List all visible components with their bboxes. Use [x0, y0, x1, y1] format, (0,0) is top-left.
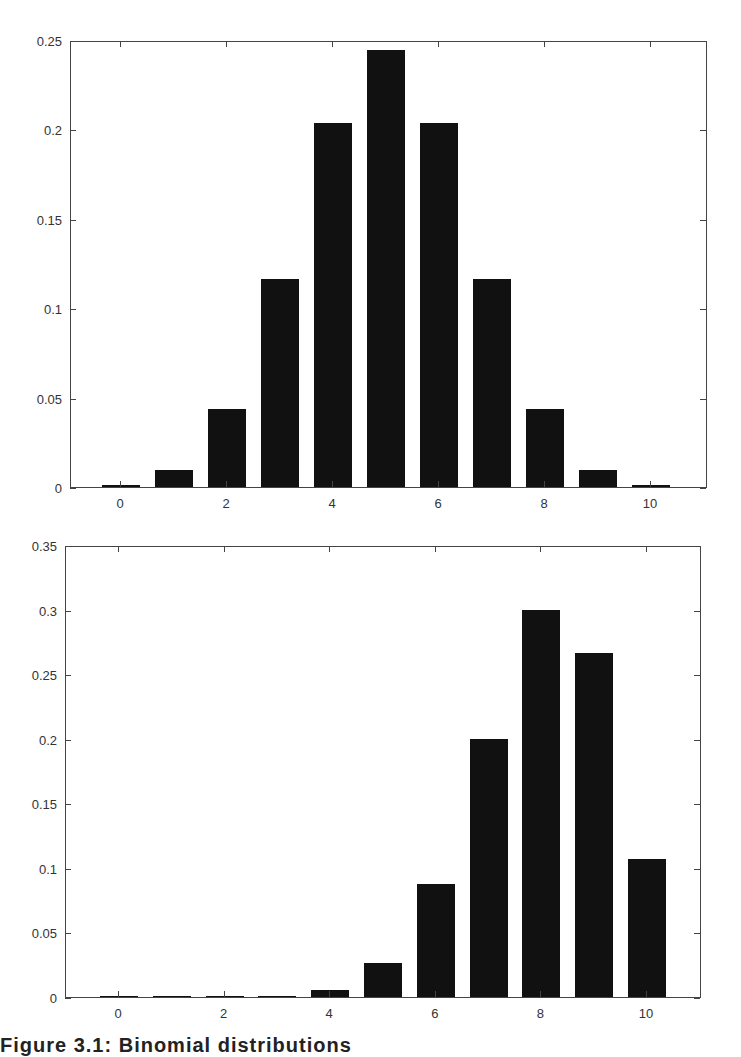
x-tick-mark [438, 41, 439, 47]
bar-6 [417, 884, 455, 997]
x-tick-label: 10 [631, 1006, 661, 1021]
x-tick-mark [438, 481, 439, 487]
x-tick-mark [329, 991, 330, 997]
x-tick-mark [540, 991, 541, 997]
y-tick-mark [70, 399, 76, 400]
x-tick-label: 4 [317, 496, 347, 511]
y-tick-mark [694, 740, 700, 741]
plot-area [65, 546, 701, 998]
y-tick-mark [65, 546, 71, 547]
x-tick-label: 8 [525, 1006, 555, 1021]
bar-8 [522, 610, 560, 997]
x-tick-mark [646, 991, 647, 997]
y-tick-mark [70, 309, 76, 310]
y-tick-mark [70, 130, 76, 131]
x-tick-mark [120, 41, 121, 47]
x-tick-label: 6 [420, 1006, 450, 1021]
bar-9 [579, 470, 617, 487]
bar-5 [364, 963, 402, 997]
y-tick-mark [70, 41, 76, 42]
y-tick-label: 0.2 [12, 123, 62, 138]
y-tick-label: 0.1 [12, 302, 62, 317]
x-tick-mark [224, 991, 225, 997]
y-tick-label: 0.15 [7, 797, 57, 812]
x-tick-mark [435, 546, 436, 552]
y-tick-mark [65, 740, 71, 741]
y-tick-mark [694, 869, 700, 870]
y-tick-mark [65, 611, 71, 612]
y-tick-label: 0.15 [12, 212, 62, 227]
x-tick-label: 0 [105, 496, 135, 511]
x-tick-mark [646, 546, 647, 552]
y-tick-mark [700, 399, 706, 400]
x-tick-mark [332, 41, 333, 47]
x-tick-mark [224, 546, 225, 552]
y-tick-mark [694, 804, 700, 805]
bar-4 [311, 990, 349, 997]
y-tick-label: 0 [12, 481, 62, 496]
x-tick-label: 2 [209, 1006, 239, 1021]
y-tick-label: 0 [7, 991, 57, 1006]
bar-7 [473, 279, 511, 487]
x-tick-mark [435, 991, 436, 997]
bar-8 [526, 409, 564, 487]
x-tick-mark [329, 546, 330, 552]
bar-2 [208, 409, 246, 487]
y-tick-mark [694, 611, 700, 612]
bar-1 [153, 996, 191, 997]
bar-10 [628, 859, 666, 997]
y-tick-mark [65, 933, 71, 934]
y-tick-mark [70, 488, 76, 489]
x-tick-mark [226, 481, 227, 487]
x-tick-mark [544, 481, 545, 487]
x-tick-mark [650, 481, 651, 487]
y-tick-mark [65, 804, 71, 805]
y-tick-label: 0.35 [7, 539, 57, 554]
y-tick-label: 0.05 [7, 926, 57, 941]
x-tick-mark [118, 546, 119, 552]
x-tick-mark [650, 41, 651, 47]
bar-3 [261, 279, 299, 487]
bar-1 [155, 470, 193, 487]
y-tick-label: 0.1 [7, 861, 57, 876]
y-tick-label: 0.25 [7, 668, 57, 683]
x-tick-label: 10 [635, 496, 665, 511]
x-tick-mark [120, 481, 121, 487]
x-tick-mark [540, 546, 541, 552]
y-tick-mark [694, 546, 700, 547]
bar-7 [470, 739, 508, 997]
x-tick-mark [332, 481, 333, 487]
x-tick-label: 2 [211, 496, 241, 511]
y-tick-label: 0.25 [12, 34, 62, 49]
y-tick-mark [694, 998, 700, 999]
plot-area [70, 41, 707, 488]
y-tick-mark [700, 488, 706, 489]
y-tick-label: 0.05 [12, 391, 62, 406]
bar-5 [367, 50, 405, 487]
y-tick-mark [700, 309, 706, 310]
y-tick-mark [694, 933, 700, 934]
y-tick-mark [70, 220, 76, 221]
x-tick-mark [226, 41, 227, 47]
figure-caption: Figure 3.1: Binomial distributions [0, 1034, 352, 1057]
y-tick-label: 0.2 [7, 732, 57, 747]
y-tick-mark [65, 869, 71, 870]
y-tick-mark [694, 675, 700, 676]
x-tick-mark [118, 991, 119, 997]
x-tick-label: 8 [529, 496, 559, 511]
y-tick-label: 0.3 [7, 603, 57, 618]
y-tick-mark [700, 41, 706, 42]
x-tick-label: 6 [423, 496, 453, 511]
y-tick-mark [65, 675, 71, 676]
y-tick-mark [700, 220, 706, 221]
bar-9 [575, 653, 613, 997]
bar-4 [314, 123, 352, 487]
y-tick-mark [65, 998, 71, 999]
bar-3 [258, 996, 296, 997]
x-tick-label: 4 [314, 1006, 344, 1021]
x-tick-mark [544, 41, 545, 47]
y-tick-mark [700, 130, 706, 131]
bar-6 [420, 123, 458, 487]
x-tick-label: 0 [103, 1006, 133, 1021]
